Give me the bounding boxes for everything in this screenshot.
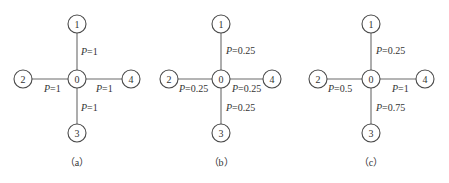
- edge-label-0-3: P=0.25: [225, 102, 255, 113]
- node-4: 4: [122, 70, 140, 88]
- edge-label-0-3: P=0.75: [375, 102, 405, 113]
- svg-text:1: 1: [75, 19, 80, 30]
- panel-c: 0 1 2 3 4 P=0.25 P=0.5 P=0.75 P=1 （c）: [309, 15, 434, 168]
- node-3: 3: [212, 124, 230, 142]
- node-2: 2: [14, 70, 32, 88]
- node-4: 4: [263, 70, 281, 88]
- node-4: 4: [416, 70, 434, 88]
- svg-text:4: 4: [270, 74, 275, 85]
- caption-a: （a）: [65, 157, 89, 168]
- figure-canvas: 0 1 2 3 4 P=1 P=1 P=1 P=1 （a） 0 1 2 3 4 …: [0, 0, 449, 183]
- panel-a: 0 1 2 3 4 P=1 P=1 P=1 P=1 （a）: [14, 15, 140, 168]
- edge-label-0-4: P=1: [391, 83, 409, 94]
- node-0: 0: [68, 70, 86, 88]
- node-1: 1: [362, 15, 380, 33]
- svg-text:3: 3: [219, 128, 224, 139]
- svg-text:3: 3: [369, 128, 374, 139]
- svg-text:0: 0: [369, 74, 374, 85]
- node-1: 1: [68, 15, 86, 33]
- node-3: 3: [362, 124, 380, 142]
- svg-text:4: 4: [423, 74, 428, 85]
- svg-text:2: 2: [167, 74, 172, 85]
- node-2: 2: [160, 70, 178, 88]
- svg-text:2: 2: [21, 74, 26, 85]
- node-3: 3: [68, 124, 86, 142]
- edge-label-0-2: P=0.5: [327, 83, 352, 94]
- svg-text:2: 2: [316, 74, 321, 85]
- node-0: 0: [362, 70, 380, 88]
- edge-label-0-4: P=0.25: [231, 83, 261, 94]
- edge-label-0-1: P=1: [80, 46, 98, 57]
- panel-b: 0 1 2 3 4 P=0.25 P=0.25 P=0.25 P=0.25 （b…: [160, 15, 281, 168]
- svg-text:0: 0: [75, 74, 80, 85]
- svg-text:1: 1: [219, 19, 224, 30]
- caption-c: （c）: [359, 157, 383, 168]
- svg-text:4: 4: [129, 74, 134, 85]
- edge-label-0-1: P=0.25: [375, 45, 405, 56]
- edge-label-0-2: P=0.25: [178, 83, 208, 94]
- svg-text:0: 0: [219, 74, 224, 85]
- caption-b: （b）: [209, 157, 234, 168]
- node-2: 2: [309, 70, 327, 88]
- node-0: 0: [212, 70, 230, 88]
- edge-label-0-3: P=1: [80, 102, 98, 113]
- edge-label-0-4: P=1: [95, 83, 113, 94]
- svg-text:3: 3: [75, 128, 80, 139]
- node-1: 1: [212, 15, 230, 33]
- edge-label-0-2: P=1: [43, 83, 61, 94]
- edge-label-0-1: P=0.25: [225, 45, 255, 56]
- svg-text:1: 1: [369, 19, 374, 30]
